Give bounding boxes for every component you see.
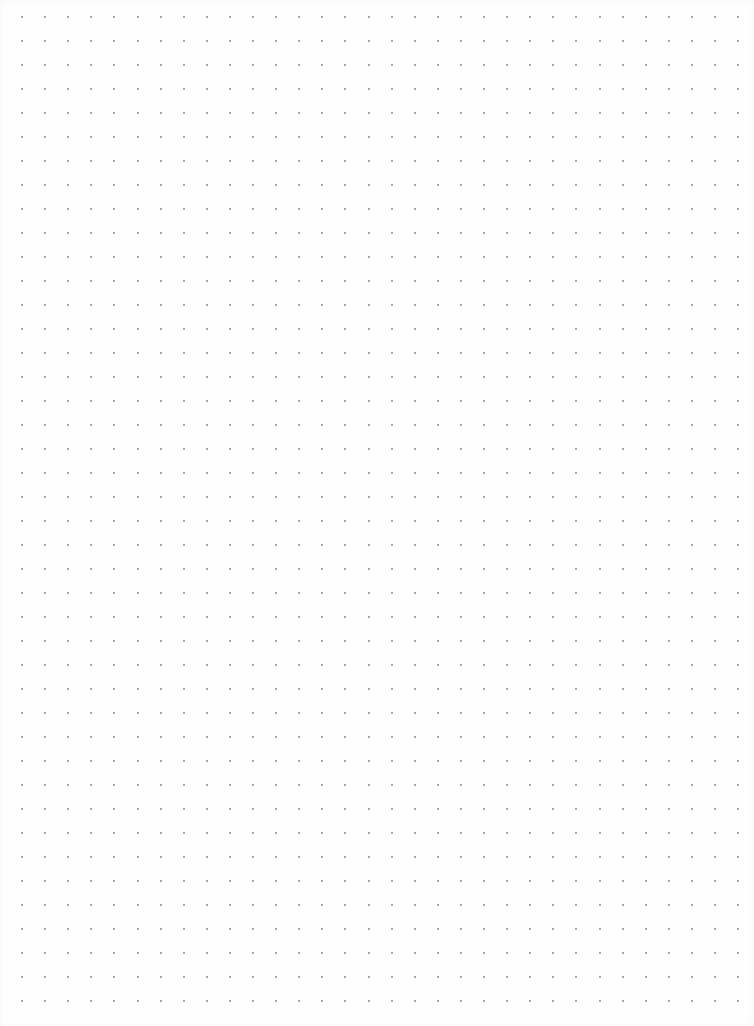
grid-dot — [368, 1000, 370, 1002]
grid-dot — [529, 496, 531, 498]
grid-dot — [67, 208, 69, 210]
grid-dot — [160, 592, 162, 594]
grid-dot — [599, 856, 601, 858]
grid-dot — [21, 616, 23, 618]
grid-dot — [44, 448, 46, 450]
grid-dot — [460, 952, 462, 954]
grid-dot — [206, 616, 208, 618]
grid-dot — [252, 928, 254, 930]
grid-dot — [67, 856, 69, 858]
grid-dot — [275, 712, 277, 714]
grid-dot — [275, 640, 277, 642]
grid-dot — [714, 640, 716, 642]
grid-dot — [321, 160, 323, 162]
grid-dot — [529, 544, 531, 546]
grid-dot — [344, 520, 346, 522]
grid-dot — [298, 400, 300, 402]
grid-dot — [368, 952, 370, 954]
grid-dot — [90, 328, 92, 330]
grid-dot — [552, 16, 554, 18]
grid-dot — [622, 808, 624, 810]
grid-dot — [437, 280, 439, 282]
grid-dot — [44, 904, 46, 906]
grid-dot — [229, 712, 231, 714]
grid-dot — [483, 760, 485, 762]
grid-dot — [160, 568, 162, 570]
grid-dot — [21, 328, 23, 330]
grid-dot — [21, 16, 23, 18]
grid-dot — [691, 640, 693, 642]
grid-dot — [391, 232, 393, 234]
grid-dot — [414, 736, 416, 738]
grid-dot — [44, 88, 46, 90]
grid-dot — [229, 232, 231, 234]
grid-dot — [113, 904, 115, 906]
grid-dot — [275, 304, 277, 306]
grid-dot — [414, 232, 416, 234]
grid-dot — [552, 136, 554, 138]
grid-dot — [691, 88, 693, 90]
grid-dot — [206, 712, 208, 714]
grid-dot — [275, 808, 277, 810]
grid-dot — [113, 832, 115, 834]
grid-dot — [599, 592, 601, 594]
grid-dot — [483, 688, 485, 690]
grid-dot — [368, 208, 370, 210]
grid-dot — [368, 976, 370, 978]
grid-dot — [229, 640, 231, 642]
grid-dot — [344, 736, 346, 738]
grid-dot — [645, 808, 647, 810]
grid-dot — [344, 88, 346, 90]
grid-dot — [275, 136, 277, 138]
grid-dot — [622, 952, 624, 954]
grid-dot — [575, 16, 577, 18]
grid-dot — [183, 592, 185, 594]
grid-dot — [368, 424, 370, 426]
grid-dot — [298, 64, 300, 66]
grid-dot — [645, 904, 647, 906]
grid-dot — [506, 16, 508, 18]
grid-dot — [252, 280, 254, 282]
grid-dot — [160, 136, 162, 138]
grid-dot — [137, 112, 139, 114]
grid-dot — [622, 208, 624, 210]
grid-dot — [668, 616, 670, 618]
grid-dot — [321, 136, 323, 138]
grid-dot — [645, 664, 647, 666]
grid-dot — [437, 736, 439, 738]
grid-dot — [67, 736, 69, 738]
grid-dot — [414, 136, 416, 138]
grid-dot — [575, 184, 577, 186]
grid-dot — [529, 352, 531, 354]
grid-dot — [137, 208, 139, 210]
grid-dot — [691, 736, 693, 738]
grid-dot — [391, 304, 393, 306]
grid-dot — [645, 640, 647, 642]
grid-dot — [344, 976, 346, 978]
grid-dot — [737, 784, 739, 786]
grid-dot — [483, 352, 485, 354]
grid-dot — [229, 208, 231, 210]
grid-dot — [645, 16, 647, 18]
grid-dot — [252, 712, 254, 714]
grid-dot — [737, 424, 739, 426]
grid-dot — [90, 208, 92, 210]
grid-dot — [206, 1000, 208, 1002]
grid-dot — [321, 736, 323, 738]
grid-dot — [160, 256, 162, 258]
grid-dot — [552, 592, 554, 594]
grid-dot — [437, 1000, 439, 1002]
grid-dot — [483, 856, 485, 858]
grid-dot — [552, 544, 554, 546]
grid-dot — [368, 160, 370, 162]
grid-dot — [229, 448, 231, 450]
grid-dot — [321, 208, 323, 210]
grid-dot — [321, 808, 323, 810]
grid-dot — [344, 496, 346, 498]
grid-dot — [599, 880, 601, 882]
grid-dot — [529, 616, 531, 618]
grid-dot — [714, 304, 716, 306]
grid-dot — [599, 256, 601, 258]
grid-dot — [368, 472, 370, 474]
grid-dot — [414, 952, 416, 954]
